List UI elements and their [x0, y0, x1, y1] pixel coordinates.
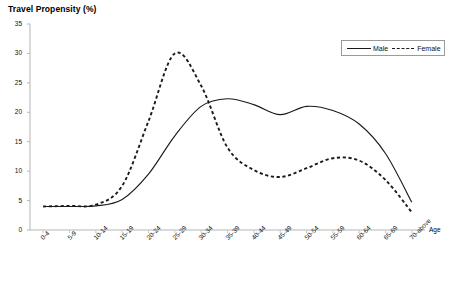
- legend-item-male: Male: [347, 45, 388, 52]
- y-tick-label: 30: [6, 49, 22, 56]
- y-tick-label: 10: [6, 167, 22, 174]
- chart-legend: Male Female: [341, 40, 445, 56]
- series-line-male: [43, 99, 412, 207]
- legend-label-female: Female: [417, 45, 440, 52]
- y-tick-label: 25: [6, 79, 22, 86]
- x-axis-title: Age: [429, 226, 441, 233]
- legend-line-solid-icon: [347, 48, 371, 49]
- legend-label-male: Male: [373, 45, 388, 52]
- series-line-female: [43, 52, 412, 212]
- y-tick-label: 5: [6, 197, 22, 204]
- legend-item-female: Female: [392, 45, 440, 52]
- y-tick-label: 15: [6, 138, 22, 145]
- travel-propensity-chart: Travel Propensity (%) 35302520151050 0-4…: [0, 0, 451, 282]
- legend-line-dashed-icon: [392, 48, 414, 49]
- y-tick-label: 0: [6, 226, 22, 233]
- y-tick-label: 35: [6, 20, 22, 27]
- y-tick-label: 20: [6, 108, 22, 115]
